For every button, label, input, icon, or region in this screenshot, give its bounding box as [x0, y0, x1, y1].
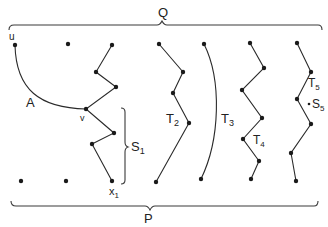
vertex: [289, 151, 293, 155]
path-t3: [201, 44, 216, 179]
vertex-x1: [110, 179, 114, 183]
vertex: [249, 177, 253, 181]
vertex: [240, 88, 244, 92]
brace-p: P: [11, 201, 318, 226]
vertex: [241, 137, 245, 141]
vertex: [248, 41, 252, 45]
vertex: [260, 116, 264, 120]
vertex: [110, 43, 114, 47]
path-t5: [291, 43, 311, 181]
vertex: [171, 91, 175, 95]
label-p: P: [144, 211, 153, 226]
label-x1: x1: [109, 185, 120, 200]
vertex: [112, 131, 116, 135]
vertex: [154, 180, 158, 184]
vertex: [114, 85, 118, 89]
label-u: u: [9, 31, 15, 42]
vertex: [199, 177, 203, 181]
label-s5: S5: [312, 97, 325, 113]
brace-s1: S1: [121, 108, 145, 184]
graph-diagram: Q P S1 A u v x1 T2 T3 T4 T5 S5: [0, 0, 328, 227]
vertex-isolated: [64, 179, 68, 183]
vertex: [257, 159, 261, 163]
vertex: [181, 70, 185, 74]
vertex: [187, 121, 191, 125]
vertex: [309, 70, 313, 74]
label-a: A: [26, 95, 35, 110]
vertices: [13, 41, 313, 184]
label-t4: T4: [253, 133, 265, 149]
vertex: [90, 142, 94, 146]
path-t4: [242, 43, 264, 179]
vertex: [295, 41, 299, 45]
vertex-u: [13, 43, 17, 47]
label-t3: T3: [221, 111, 234, 128]
point-s5: [308, 103, 311, 106]
label-t2: T2: [166, 111, 179, 128]
label-s1: S1: [131, 139, 145, 156]
vertex: [309, 122, 313, 126]
label-t5: T5: [308, 76, 320, 92]
label-q: Q: [158, 5, 168, 20]
label-v: v: [80, 113, 85, 123]
vertex: [94, 70, 98, 74]
vertex-isolated: [66, 42, 70, 46]
vertex: [295, 97, 299, 101]
vertex: [262, 66, 266, 70]
brace-q: Q: [9, 5, 322, 30]
vertex: [294, 179, 298, 183]
vertex: [157, 42, 161, 46]
vertex-isolated: [19, 179, 23, 183]
vertex-v: [84, 107, 88, 111]
path-s1: [86, 45, 116, 181]
vertex: [202, 42, 206, 46]
